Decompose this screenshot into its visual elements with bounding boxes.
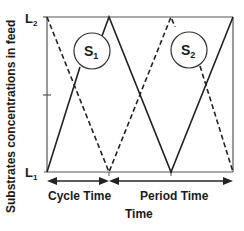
cycle-time-label: Cycle Time <box>48 189 111 203</box>
arrow-head-left <box>109 177 119 185</box>
arrow-head-right <box>223 177 233 185</box>
arrow-head-left <box>47 177 57 185</box>
s1-line <box>47 67 80 172</box>
l1-label: L1 <box>25 165 38 182</box>
concentration-diagram: S1 S2 L2 L1 Substrates concentrations in… <box>0 0 244 231</box>
period-time-label: Period Time <box>140 189 209 203</box>
s2-line-cont <box>200 66 233 172</box>
s2-line <box>47 17 175 172</box>
x-axis-title: Time <box>125 207 153 221</box>
y-axis-title: Substrates concentrations in feed <box>4 20 18 213</box>
s1-line-cont <box>102 17 233 172</box>
arrow-head-right <box>99 177 109 185</box>
l2-label: L2 <box>25 11 38 28</box>
